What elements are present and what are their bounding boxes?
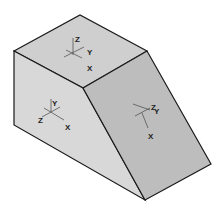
slope-face-y-label: Y — [154, 107, 160, 116]
top-face-x-label: X — [87, 64, 93, 73]
top-face-z-label: Z — [75, 35, 80, 44]
top-face-y-label: Y — [87, 48, 93, 57]
wedge-diagram: Z Y X Y Z X Z Y X — [0, 0, 222, 211]
front-face-x-label: X — [65, 123, 71, 132]
slope-face-x-label: X — [148, 132, 154, 141]
front-face-y-label: Y — [52, 99, 58, 108]
front-face-z-label: Z — [38, 116, 43, 125]
